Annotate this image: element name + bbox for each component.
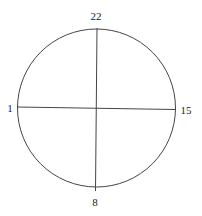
label-top: 22 — [91, 10, 102, 22]
circle-diagram: 22 1 15 8 — [0, 0, 202, 216]
vertical-line — [96, 28, 98, 191]
label-right: 15 — [181, 104, 193, 116]
label-bottom: 8 — [92, 196, 98, 208]
label-left: 1 — [7, 102, 13, 114]
